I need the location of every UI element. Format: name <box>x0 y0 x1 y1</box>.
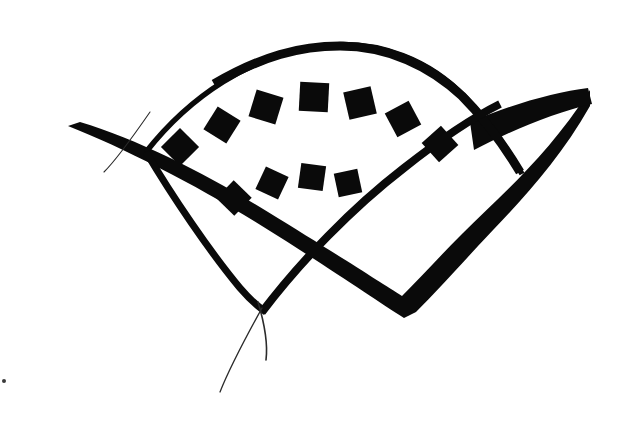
canvas-background <box>0 0 627 422</box>
inner-square-3 <box>298 163 326 191</box>
stray-ink-speck <box>2 379 6 383</box>
logo-artwork <box>0 0 627 422</box>
outer-square-4 <box>299 82 329 112</box>
artwork-canvas <box>0 0 627 422</box>
inner-square-4 <box>334 169 362 197</box>
